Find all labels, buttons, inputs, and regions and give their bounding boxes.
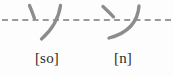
katakana-n-glyph [92,0,154,46]
katakana-comparison-figure: [so] [n] [0,0,173,76]
katakana-so-glyph [16,0,78,46]
phonetic-label-n: [n] [92,48,154,68]
phonetic-label-so: [so] [16,48,78,68]
